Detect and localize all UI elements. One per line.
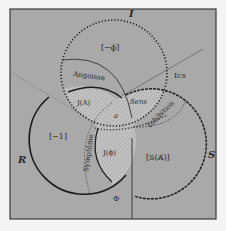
label-ring-s: S bbox=[208, 149, 215, 160]
label-minus-one: [−1] bbox=[49, 132, 67, 141]
label-sens: Sens bbox=[130, 98, 147, 106]
label-ring-r: R bbox=[17, 154, 26, 165]
label-ring-i: I bbox=[128, 8, 134, 19]
label-phi: Φ bbox=[113, 194, 120, 203]
label-j-phi: J(ϕ) bbox=[102, 149, 116, 157]
borromean-knot-diagram: I R S [−ϕ] [−1] [S(A̸)] Angoisse Sens In… bbox=[0, 0, 226, 231]
label-j-a: J(A) bbox=[76, 99, 91, 107]
label-ics: Ics bbox=[174, 71, 186, 80]
label-minus-phi: [−ϕ] bbox=[101, 43, 119, 52]
label-s-barred-a: [S(A̸)] bbox=[146, 153, 170, 162]
label-object-a: a bbox=[114, 112, 118, 120]
